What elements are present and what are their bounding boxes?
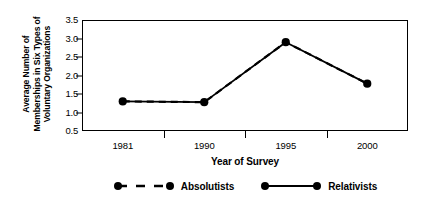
y-axis-tick-labels: 3.53.02.52.01.51.00.5 — [52, 0, 78, 201]
y-axis-tick-label: 2.5 — [54, 52, 78, 62]
legend-swatch-dashed — [113, 180, 175, 192]
y-axis-title: Average Number of Memberships in Six Typ… — [17, 0, 57, 149]
y-axis-tick-mark — [76, 94, 83, 95]
chart-figure: Average Number of Memberships in Six Typ… — [0, 0, 425, 201]
chart-plot-svg — [82, 20, 408, 131]
legend-label: Relativists — [328, 181, 377, 192]
y-axis-tick-label: 2.0 — [54, 71, 78, 81]
y-axis-tick-label: 3.0 — [54, 34, 78, 44]
y-axis-tick-label: 0.5 — [54, 126, 78, 136]
x-axis-tick-label: 2000 — [337, 140, 397, 151]
y-axis-tick-label: 3.5 — [54, 15, 78, 25]
y-axis-tick-label: 1.0 — [54, 108, 78, 118]
data-point-marker — [200, 98, 208, 106]
legend-swatch-solid — [260, 180, 322, 192]
x-axis-tick-label: 1990 — [174, 140, 234, 151]
y-axis-tick-mark — [76, 57, 83, 58]
series-line-relativists — [123, 42, 368, 102]
y-axis-title-line-1: Average Number of — [21, 35, 32, 112]
legend-label: Absolutists — [181, 181, 234, 192]
legend-entry-relativists: Relativists — [260, 180, 377, 192]
x-axis-title: Year of Survey — [82, 156, 408, 167]
x-axis-tick-mark — [327, 131, 328, 138]
chart-legend: AbsolutistsRelativists — [82, 176, 408, 196]
y-axis-tick-mark — [76, 112, 83, 113]
y-axis-tick-mark — [76, 38, 83, 39]
data-point-marker — [282, 38, 290, 46]
y-axis-tick-mark — [76, 75, 83, 76]
y-axis-tick-label: 1.5 — [54, 89, 78, 99]
data-point-marker — [363, 80, 371, 88]
x-axis-tick-mark — [164, 131, 165, 138]
x-axis-tick-label: 1981 — [93, 140, 153, 151]
legend-entry-absolutists: Absolutists — [113, 180, 234, 192]
x-axis-tick-label: 1995 — [256, 140, 316, 151]
data-point-marker — [119, 97, 127, 105]
y-axis-title-line-2: Memberships in Six Types of — [32, 16, 43, 131]
x-axis-tick-mark — [245, 131, 246, 138]
